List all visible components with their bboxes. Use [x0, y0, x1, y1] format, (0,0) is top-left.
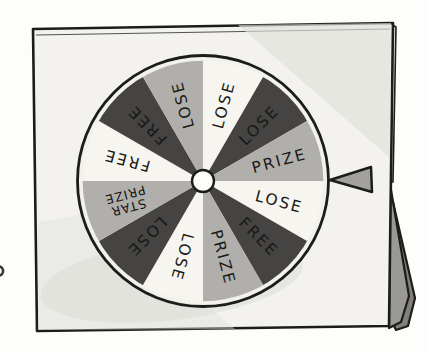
prize-wheel[interactable]: LOSELOSEPRIZELOSEFREEPRIZELOSELOSESTARPR… [78, 56, 329, 307]
easel-stand [389, 184, 415, 330]
prize-wheel-illustration: LOSELOSEPRIZELOSEFREEPRIZELOSELOSESTARPR… [0, 0, 428, 353]
left-edge-mark [0, 266, 3, 275]
illustration-svg: LOSELOSEPRIZELOSEFREEPRIZELOSELOSESTARPR… [0, 0, 428, 353]
wheel-hub [192, 170, 214, 192]
